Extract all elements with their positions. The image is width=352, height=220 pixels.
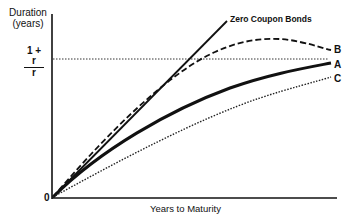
series-a-label: A — [334, 59, 341, 70]
series-b — [53, 39, 331, 197]
series-c-label: C — [334, 73, 341, 84]
asymptote-numerator: 1 + r — [24, 46, 44, 68]
asymptote-label: 1 + r r — [24, 46, 44, 78]
origin-label: 0 — [44, 192, 50, 203]
series-b-label: B — [334, 44, 341, 55]
x-axis-label: Years to Maturity — [150, 203, 221, 214]
asymptote-denominator: r — [24, 68, 44, 78]
chart-plot — [0, 0, 352, 220]
series-c — [53, 77, 331, 197]
series-a — [53, 63, 331, 197]
zero-coupon-label: Zero Coupon Bonds — [230, 14, 312, 24]
series-zero-coupon — [53, 21, 227, 197]
y-axis-label: Duration (years) — [8, 7, 48, 29]
